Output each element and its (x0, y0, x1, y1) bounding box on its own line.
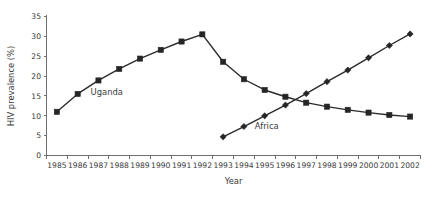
y-tick-label: 35 (31, 12, 41, 21)
data-point (345, 67, 351, 73)
y-tick-label: 15 (31, 92, 41, 101)
series-label-africa: Africa (255, 121, 279, 131)
x-tick-label: 1997 (297, 161, 316, 170)
data-point (179, 39, 184, 44)
data-point (324, 104, 329, 109)
y-axis: 05101520253035 (31, 12, 46, 160)
data-point (158, 47, 163, 52)
x-tick-label: 1999 (338, 161, 357, 170)
x-tick-label: 1996 (276, 161, 295, 170)
series-labels: UgandaAfrica (91, 87, 279, 131)
data-point (241, 123, 247, 129)
series-line-africa (223, 34, 410, 137)
data-point (407, 31, 413, 37)
y-axis-title: HIV prevalence (%) (6, 46, 16, 127)
data-point (96, 78, 101, 83)
data-point (75, 91, 80, 96)
x-tick-label: 1986 (68, 161, 87, 170)
data-point (54, 109, 59, 114)
y-tick-label: 5 (36, 131, 41, 140)
data-point (365, 55, 371, 61)
data-point (200, 32, 205, 37)
data-point (221, 59, 226, 64)
data-point (262, 113, 268, 119)
series-africa (220, 31, 413, 140)
x-tick-label: 1992 (193, 161, 212, 170)
series-line-uganda (57, 34, 410, 116)
x-tick-label: 1998 (317, 161, 336, 170)
data-point (408, 114, 413, 119)
data-point (282, 102, 288, 108)
data-point (262, 87, 267, 92)
x-axis-title: Year (224, 176, 243, 186)
y-tick-label: 10 (31, 112, 41, 121)
x-tick-label: 1993 (213, 161, 232, 170)
data-point (324, 79, 330, 85)
data-point (387, 112, 392, 117)
x-tick-label: 1989 (130, 161, 149, 170)
x-tick-label: 1985 (47, 161, 66, 170)
data-point (386, 42, 392, 48)
plot-area: 05101520253035 1985198619871988198919901… (6, 12, 421, 186)
data-point (137, 56, 142, 61)
y-tick-label: 0 (36, 151, 41, 160)
y-tick-label: 25 (31, 52, 41, 61)
x-tick-label: 1994 (234, 161, 253, 170)
y-tick-label: 30 (31, 32, 41, 41)
data-point (241, 77, 246, 82)
data-point (303, 90, 309, 96)
data-point (366, 110, 371, 115)
series-layer (54, 31, 413, 140)
x-tick-label: 1990 (151, 161, 170, 170)
data-point (283, 94, 288, 99)
y-tick-label: 20 (31, 72, 41, 81)
chart-svg: 05101520253035 1985198619871988198919901… (0, 0, 429, 199)
hiv-prevalence-chart: 05101520253035 1985198619871988198919901… (0, 0, 429, 199)
series-label-uganda: Uganda (91, 87, 123, 97)
series-uganda (54, 32, 412, 119)
x-tick-label: 1988 (110, 161, 129, 170)
x-tick-label: 2000 (359, 161, 378, 170)
x-tick-label: 1995 (255, 161, 274, 170)
x-tick-label: 1987 (89, 161, 108, 170)
data-point (304, 100, 309, 105)
x-axis: 1985198619871988198919901991199219931994… (47, 156, 421, 170)
data-point (220, 134, 226, 140)
x-tick-label: 2002 (400, 161, 419, 170)
data-point (345, 107, 350, 112)
x-tick-label: 1991 (172, 161, 191, 170)
x-tick-label: 2001 (380, 161, 399, 170)
data-point (117, 66, 122, 71)
